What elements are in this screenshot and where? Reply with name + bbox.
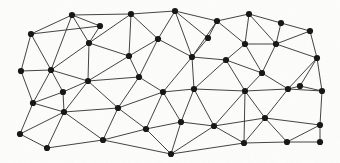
- mesh-edge: [192, 21, 217, 57]
- mesh-vertex: [28, 31, 34, 37]
- mesh-edge: [244, 142, 287, 143]
- mesh-vertex: [18, 68, 24, 74]
- mesh-edge: [276, 31, 310, 44]
- mesh-edge: [171, 143, 244, 154]
- mesh-edge: [276, 44, 317, 58]
- mesh-vertex: [259, 70, 265, 76]
- mesh-edge: [194, 60, 226, 89]
- mesh-edge: [51, 43, 89, 70]
- mesh-edge: [118, 92, 163, 108]
- mesh-edge: [226, 44, 245, 60]
- mesh-edge: [214, 91, 245, 126]
- mesh-vertex: [297, 83, 303, 89]
- mesh-vertex: [242, 88, 248, 94]
- mesh-edge: [262, 44, 276, 73]
- mesh-edge: [249, 14, 276, 44]
- mesh-edge: [245, 91, 265, 118]
- mesh-vertex: [128, 11, 134, 17]
- mesh-edge: [245, 14, 249, 44]
- mesh-edge: [20, 134, 47, 148]
- mesh-edge: [163, 92, 181, 122]
- mesh-vertex: [61, 109, 67, 115]
- mesh-edge: [265, 118, 287, 142]
- mesh-vertex: [48, 67, 54, 73]
- mesh-edge: [181, 89, 194, 122]
- mesh-edge: [192, 57, 226, 60]
- mesh-edge: [20, 103, 33, 134]
- mesh-edge: [20, 112, 64, 134]
- mesh-edge: [33, 103, 64, 112]
- mesh-edge: [131, 11, 175, 14]
- mesh-edge: [64, 112, 103, 140]
- mesh-edge: [245, 73, 262, 91]
- mesh-edge: [217, 14, 249, 21]
- mesh-edge: [88, 77, 139, 81]
- mesh-vertex: [211, 123, 217, 129]
- mesh-edge: [146, 129, 171, 154]
- mesh-edge: [33, 92, 63, 103]
- mesh-edge: [146, 122, 181, 129]
- mesh-edge: [33, 70, 51, 103]
- mesh-vertex: [85, 78, 91, 84]
- mesh-vertex: [30, 100, 36, 106]
- mesh-edge: [88, 81, 118, 108]
- mesh-vertex: [115, 105, 121, 111]
- mesh-edge: [265, 89, 288, 118]
- mesh-vertex: [136, 74, 142, 80]
- mesh-edge: [129, 56, 139, 77]
- mesh-edge: [226, 60, 262, 73]
- mesh-edge: [64, 81, 88, 112]
- mesh-edge: [131, 14, 158, 39]
- mesh-vertex: [160, 89, 166, 95]
- mesh-edge: [47, 140, 103, 148]
- mesh-edge: [88, 43, 89, 81]
- mesh-edge: [192, 38, 208, 57]
- mesh-edge: [163, 57, 192, 92]
- mesh-edge: [194, 89, 214, 126]
- mesh-edge: [194, 89, 245, 91]
- mesh-vertex: [242, 41, 248, 47]
- mesh-edge: [89, 43, 129, 56]
- mesh-edge: [214, 118, 265, 126]
- mesh-edge: [88, 56, 129, 81]
- mesh-edge: [158, 11, 175, 39]
- mesh-edge: [181, 122, 214, 126]
- mesh-edge: [217, 21, 245, 44]
- mesh-vertex: [205, 35, 211, 41]
- mesh-edge: [118, 77, 139, 108]
- mesh-edge: [262, 73, 288, 89]
- mesh-vertex: [168, 151, 174, 157]
- mesh-vertex: [241, 140, 247, 146]
- mesh-vertex: [223, 57, 229, 63]
- mesh-canvas: [0, 0, 340, 163]
- mesh-vertex: [172, 8, 178, 14]
- mesh-vertex: [285, 86, 291, 92]
- mesh-edge: [64, 108, 118, 112]
- mesh-edge: [118, 108, 146, 129]
- mesh-vertex: [69, 12, 75, 18]
- mesh-edge: [103, 108, 118, 140]
- mesh-edge: [226, 60, 245, 91]
- mesh-edge: [249, 14, 281, 23]
- mesh-edge: [320, 91, 322, 125]
- mesh-vertex: [60, 89, 66, 95]
- mesh-edge: [21, 34, 31, 71]
- mesh-edge: [72, 15, 100, 26]
- mesh-edge: [139, 77, 163, 92]
- mesh-edge: [244, 91, 245, 143]
- mesh-edge: [47, 112, 64, 148]
- mesh-edge: [103, 140, 171, 154]
- mesh-edge: [129, 14, 131, 56]
- mesh-edge: [300, 58, 317, 86]
- mesh-vertex: [307, 28, 313, 34]
- mesh-edge: [89, 14, 131, 43]
- mesh-edge: [265, 118, 320, 125]
- mesh-edge: [281, 23, 310, 31]
- mesh-edge: [192, 57, 194, 89]
- mesh-vertex: [44, 145, 50, 151]
- mesh-vertex: [155, 36, 161, 42]
- mesh-vertex: [246, 11, 252, 17]
- mesh-vertex: [97, 23, 103, 29]
- mesh-edge: [72, 14, 131, 15]
- mesh-edge: [103, 129, 146, 140]
